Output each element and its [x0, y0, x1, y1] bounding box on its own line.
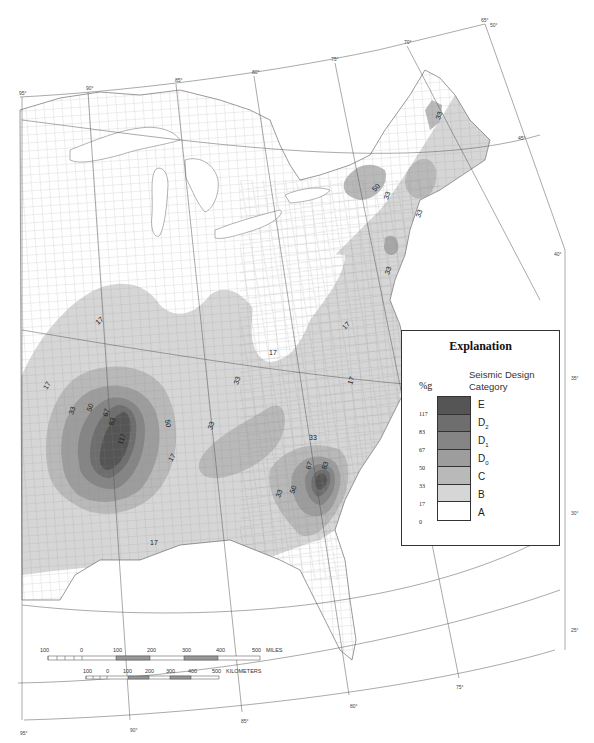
svg-text:65°: 65°	[481, 17, 489, 23]
svg-text:50: 50	[164, 419, 172, 428]
svg-text:85°: 85°	[175, 77, 183, 83]
category-label-b: B	[478, 489, 485, 502]
swatch-e	[438, 397, 470, 415]
svg-text:95°: 95°	[20, 730, 28, 736]
svg-text:33: 33	[414, 209, 423, 219]
svg-text:KILOMETERS: KILOMETERS	[226, 668, 262, 674]
legend-explanation: Explanation %g Seismic Design Category E…	[401, 330, 560, 546]
svg-text:300: 300	[182, 647, 191, 653]
svg-text:50°: 50°	[490, 22, 498, 28]
svg-text:25°: 25°	[571, 627, 579, 633]
svg-text:100: 100	[83, 668, 92, 674]
svg-text:300: 300	[166, 668, 175, 674]
category-label-c: C	[478, 471, 485, 484]
svg-text:85°: 85°	[241, 718, 249, 724]
svg-text:500: 500	[252, 647, 261, 653]
svg-text:80°: 80°	[350, 703, 358, 709]
scale-bar-miles: 100 0 100 200 300 400 500 MILES	[40, 647, 283, 660]
swatch-d1	[438, 432, 470, 450]
swatch-d0	[438, 450, 470, 468]
svg-text:MILES: MILES	[266, 647, 283, 653]
scale-bar-kilometers: 100 0 100 200 300 400 500 KILOMETERS	[83, 668, 262, 679]
legend-swatches	[437, 396, 471, 521]
svg-text:17: 17	[269, 349, 277, 356]
svg-text:0: 0	[80, 647, 83, 653]
svg-text:40°: 40°	[554, 251, 562, 257]
svg-text:500: 500	[212, 668, 221, 674]
threshold-33: 33	[419, 483, 433, 489]
svg-text:75°: 75°	[331, 56, 339, 62]
svg-text:100: 100	[123, 668, 132, 674]
threshold-83: 83	[419, 429, 433, 435]
svg-text:100: 100	[40, 647, 49, 653]
swatch-a	[438, 502, 470, 520]
swatch-b	[438, 485, 470, 503]
svg-text:45°: 45°	[518, 135, 526, 141]
svg-text:400: 400	[188, 668, 197, 674]
category-label-e: E	[478, 399, 485, 412]
svg-text:400: 400	[216, 647, 225, 653]
legend-unit-label: %g	[419, 380, 432, 391]
svg-text:90°: 90°	[86, 85, 94, 91]
legend-category-header: Seismic Design Category	[469, 369, 559, 393]
threshold-50: 50	[419, 465, 433, 471]
svg-text:70°: 70°	[404, 39, 412, 45]
svg-text:100: 100	[113, 647, 122, 653]
category-label-a: A	[478, 507, 485, 520]
svg-text:75°: 75°	[456, 684, 464, 690]
svg-text:33: 33	[309, 434, 317, 441]
svg-text:200: 200	[147, 647, 156, 653]
category-label-d2: D2	[478, 417, 489, 430]
category-label-d1: D1	[478, 435, 489, 448]
svg-text:17: 17	[150, 539, 158, 546]
legend-title: Explanation	[402, 339, 559, 354]
threshold-0: 0	[419, 519, 433, 525]
swatch-d2	[438, 415, 470, 433]
threshold-67: 67	[419, 447, 433, 453]
svg-text:80°: 80°	[252, 69, 260, 75]
svg-text:200: 200	[145, 668, 154, 674]
threshold-117: 117	[419, 411, 433, 417]
category-label-d0: D0	[478, 453, 489, 466]
svg-text:30°: 30°	[571, 510, 579, 516]
svg-text:0: 0	[106, 668, 109, 674]
svg-text:95°: 95°	[19, 90, 27, 96]
threshold-17: 17	[419, 501, 433, 507]
svg-text:35°: 35°	[571, 375, 579, 381]
swatch-c	[438, 467, 470, 485]
svg-text:90°: 90°	[130, 727, 138, 733]
